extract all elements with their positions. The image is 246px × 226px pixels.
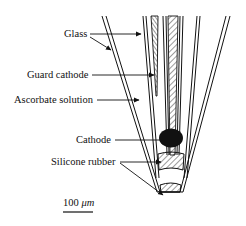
silicone-rubber-plug-upper [158, 152, 184, 170]
cathode-bead [159, 129, 183, 148]
label-silicone-rubber: Silicone rubber [51, 157, 115, 168]
guard-cathode [151, 16, 158, 96]
inner-glass-right [184, 16, 200, 178]
label-ascorbate-solution: Ascorbate solution [14, 95, 93, 106]
label-glass: Glass [64, 29, 87, 40]
scale-bar-unit: μm [81, 197, 94, 208]
diagram-canvas [0, 0, 246, 226]
silicone-rubber-plug-tip [160, 183, 181, 192]
label-cathode: Cathode [76, 135, 111, 146]
leader-lines [90, 34, 163, 195]
label-guard-cathode: Guard cathode [27, 70, 89, 81]
microelectrode-diagram: Glass Guard cathode Ascorbate solution C… [0, 0, 246, 226]
scale-bar-value: 100 [63, 197, 79, 208]
scale-bar-label: 100 μm [63, 198, 94, 209]
